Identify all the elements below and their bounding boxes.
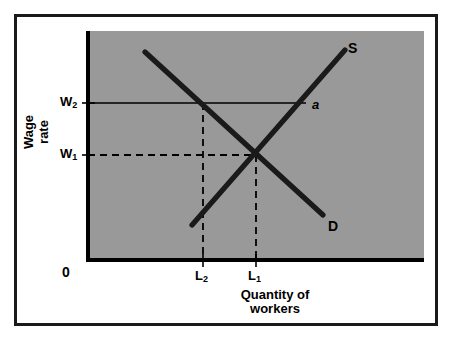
y-axis-label-text: Wagerate bbox=[22, 115, 52, 149]
x-tick-label-l1: L1 bbox=[248, 269, 261, 283]
demand-curve-label: D bbox=[328, 219, 338, 234]
point-a-label: a bbox=[312, 98, 319, 112]
y-tick-label-w2: W2 bbox=[60, 95, 77, 109]
y-tick-label-w1-sub: 1 bbox=[72, 152, 77, 162]
y-axis-label-line1: Wage bbox=[21, 115, 36, 149]
origin-label: 0 bbox=[62, 265, 70, 280]
x-axis-label: Quantity ofworkers bbox=[225, 288, 325, 317]
y-tick-label-w2-text: W bbox=[60, 94, 72, 109]
y-tick-label-w2-sub: 2 bbox=[72, 100, 77, 110]
x-axis-label-line2: workers bbox=[250, 301, 300, 316]
y-tick-label-w1: W1 bbox=[60, 147, 77, 161]
y-axis-label: Wagerate bbox=[14, 112, 60, 152]
x-tick-label-l1-sub: 1 bbox=[256, 274, 261, 284]
supply-curve-label: S bbox=[348, 41, 357, 56]
x-tick-label-l2-sub: 2 bbox=[203, 274, 208, 284]
x-axis-label-line1: Quantity of bbox=[241, 287, 310, 302]
x-tick-label-l2: L2 bbox=[195, 269, 208, 283]
figure-root: Wagerate W2 W1 L2 L1 0 S D a Quantity of… bbox=[0, 0, 456, 339]
y-tick-label-w1-text: W bbox=[60, 146, 72, 161]
plot-area-background bbox=[86, 31, 424, 262]
y-axis-label-line2: rate bbox=[36, 120, 51, 144]
x-tick-label-l1-text: L bbox=[248, 268, 256, 283]
x-tick-label-l2-text: L bbox=[195, 268, 203, 283]
